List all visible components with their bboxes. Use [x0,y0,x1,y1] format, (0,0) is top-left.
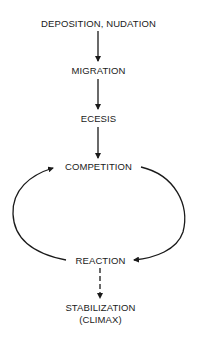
node-reaction: REACTION [2,255,197,266]
arrow-reaction-to-competition [13,168,66,260]
node-stabilization-sublabel: (CLIMAX) [2,314,197,325]
node-migration: MIGRATION [0,65,197,76]
arrow-competition-to-reaction [134,167,185,260]
node-ecesis: ECESIS [0,113,197,124]
node-deposition: DEPOSITION, NUDATION [0,18,197,29]
node-competition: COMPETITION [0,161,197,172]
node-stabilization: STABILIZATION [2,302,197,313]
